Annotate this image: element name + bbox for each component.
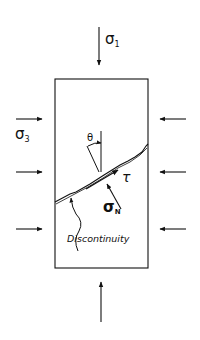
sigmaN-label: σN bbox=[103, 198, 121, 216]
discontinuity-label: Discontinuity bbox=[67, 233, 130, 244]
theta-label: θ bbox=[87, 132, 93, 143]
sigma1-label: σ1 bbox=[105, 30, 120, 49]
theta-reference-normal bbox=[87, 146, 99, 172]
stress-diagram: σ1 σ3 θ τ σN Discontinuity bbox=[0, 0, 200, 340]
sigma3-label: σ3 bbox=[15, 125, 30, 144]
tau-arrow bbox=[86, 170, 118, 189]
tau-label: τ bbox=[122, 169, 131, 185]
theta-arc bbox=[88, 143, 101, 146]
